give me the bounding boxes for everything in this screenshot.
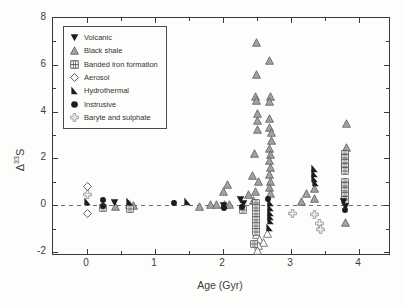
marker-black-shale [253,125,262,134]
marker-volcanic [110,198,119,207]
marker-black-shale [265,56,274,65]
y-minor-tick [386,88,389,89]
y-axis-label-base: Δ [14,164,26,171]
x-tick-label: 1 [142,257,166,268]
marker-aerosol [83,209,92,218]
marker-intrusive [341,206,349,214]
legend-item-hydrothermal: Hydrothermal [70,85,166,96]
black-shale-icon [70,46,79,55]
legend-item-black-shale: Black shale [70,45,166,56]
y-minor-tick [53,88,56,89]
x-major-tick [223,249,224,254]
marker-hydrothermal [125,197,134,206]
marker-intrusive [238,203,246,211]
x-minor-tick [121,251,122,254]
marker-black-shale [253,109,262,118]
y-major-tick [384,112,389,113]
y-major-tick [384,252,389,253]
marker-bif [250,240,258,248]
y-major-tick [53,112,58,113]
marker-black-shale [297,197,306,206]
legend-label: Hydrothermal [84,86,129,95]
marker-black-shale [265,114,274,123]
y-minor-tick [386,182,389,183]
marker-hydrothermal [83,197,92,206]
x-minor-tick [189,251,190,254]
marker-black-shale [341,218,350,227]
volcanic-icon [70,33,79,42]
marker-intrusive [220,204,228,212]
y-minor-tick [386,135,389,136]
marker-intrusive [99,202,107,210]
x-major-tick [155,249,156,254]
y-axis-label-superscript: 33 [13,156,20,164]
legend-item-volcanic: Volcanic [70,32,166,43]
legend-item-aerosol: Aerosol [70,72,166,83]
marker-black-shale [251,187,260,196]
marker-hydrothermal [183,197,192,206]
marker-aerosol [83,182,92,191]
legend-box: VolcanicBlack shaleBanded iron formation… [63,26,167,129]
y-tick-label: -2 [20,245,46,256]
legend-label: Banded iron formation [84,60,158,69]
x-tick-label: 2 [210,257,234,268]
y-minor-tick [53,182,56,183]
marker-hydrothermal [311,178,320,187]
marker-black-shale [223,180,232,189]
intrusive-icon [70,100,79,109]
x-tick-label: 0 [74,257,98,268]
x-minor-tick [325,251,326,254]
y-major-tick [384,65,389,66]
marker-bif [341,167,349,175]
legend-label: Instrusive [84,100,116,109]
marker-black-shale [195,202,204,211]
marker-black-shale [342,119,351,128]
x-tick-label: 4 [346,257,370,268]
y-major-tick [384,205,389,206]
legend-label: Aerosol [84,73,109,82]
x-major-tick [359,18,360,23]
hydrothermal-icon [70,86,79,95]
y-major-tick [53,158,58,159]
x-minor-tick [325,18,326,21]
plot-area: VolcanicBlack shaleBanded iron formation… [52,17,390,255]
legend-label: Baryte and sulphate [84,113,151,122]
x-major-tick [87,249,88,254]
marker-black-shale [252,70,261,79]
x-axis-label: Age (Gyr) [52,279,388,291]
figure: Δ33S Age (Gyr) VolcanicBlack shaleBanded… [0,0,403,306]
legend-label: Black shale [84,46,122,55]
y-major-tick [53,65,58,66]
marker-baryte [316,225,325,234]
legend-item-baryte: Baryte and sulphate [70,112,166,123]
marker-baryte [310,210,319,219]
y-tick-label: 2 [20,151,46,162]
y-tick-label: 4 [20,105,46,116]
x-major-tick [291,249,292,254]
x-tick-label: 3 [278,257,302,268]
x-major-tick [87,18,88,23]
marker-intrusive [264,195,272,203]
y-minor-tick [53,41,56,42]
y-minor-tick [386,229,389,230]
y-major-tick [53,252,58,253]
marker-black-shale [310,194,319,203]
x-minor-tick [257,18,258,21]
y-minor-tick [53,135,56,136]
x-major-tick [223,18,224,23]
baryte-icon [70,113,79,122]
bif-icon [70,60,79,69]
legend-label: Volcanic [84,33,112,42]
x-minor-tick [189,18,190,21]
marker-bif [252,228,260,236]
y-tick-label: 6 [20,58,46,69]
x-major-tick [359,249,360,254]
x-major-tick [155,18,156,23]
marker-black-shale [265,97,274,106]
x-minor-tick [121,18,122,21]
marker-black-shale [252,96,261,105]
y-minor-tick [53,229,56,230]
marker-black-shale [252,38,261,47]
legend-item-bif: Banded iron formation [70,59,166,70]
legend-item-intrusive: Instrusive [70,99,166,110]
